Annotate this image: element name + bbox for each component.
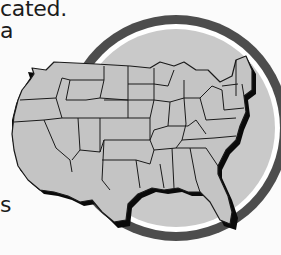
usa-map-icon — [12, 56, 252, 224]
usa-map-figure — [0, 0, 281, 255]
